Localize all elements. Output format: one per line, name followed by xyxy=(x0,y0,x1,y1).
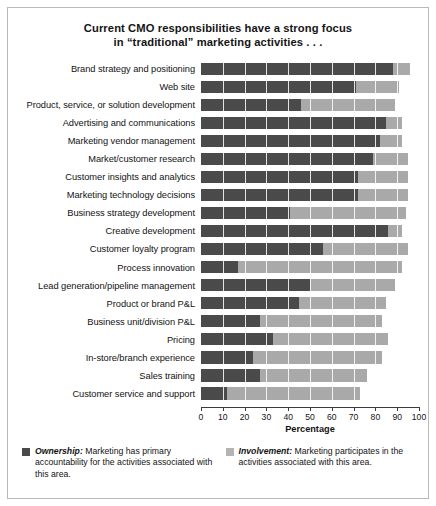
bar-segment-ownership xyxy=(201,297,299,309)
legend-swatch-involvement-icon xyxy=(226,448,234,456)
bar-segment-ownership xyxy=(201,207,290,219)
chart-title-line-2: in “traditional” marketing activities . … xyxy=(38,35,398,49)
legend-text-ownership: Ownership: Marketing has primary account… xyxy=(35,446,226,480)
bar-segment-ownership xyxy=(201,261,238,273)
stacked-bar xyxy=(201,333,388,345)
bar-segment-involvement xyxy=(273,333,389,345)
bar-row: Business strategy development xyxy=(8,204,430,222)
bar-segment-ownership xyxy=(201,369,260,381)
category-label: Marketing vendor management xyxy=(8,136,201,146)
bar-segment-ownership xyxy=(201,171,358,183)
x-axis-title: Percentage xyxy=(201,424,419,434)
stacked-bar xyxy=(201,189,408,201)
x-axis-tick-label: 40 xyxy=(283,412,293,422)
x-axis-tick xyxy=(310,407,311,411)
x-axis-tick xyxy=(332,407,333,411)
bar-segment-involvement xyxy=(290,207,406,219)
stacked-bar xyxy=(201,297,386,309)
bar-segment-ownership xyxy=(201,99,301,111)
bar-row: Brand strategy and positioning xyxy=(8,60,430,78)
stacked-bar xyxy=(201,117,402,129)
bar-segment-ownership xyxy=(201,279,310,291)
category-label: Creative development xyxy=(8,226,201,236)
category-label: Product, service, or solution developmen… xyxy=(8,100,201,110)
bar-segment-involvement xyxy=(386,117,401,129)
bar-segment-involvement xyxy=(299,297,386,309)
bar-row: Marketing technology decisions xyxy=(8,186,430,204)
bar-segment-ownership xyxy=(201,315,260,327)
category-label: Pricing xyxy=(8,335,201,345)
bar-segment-ownership xyxy=(201,243,323,255)
x-axis-tick-label: 70 xyxy=(349,412,359,422)
bar-row: Marketing vendor management xyxy=(8,132,430,150)
x-axis-tick-label: 10 xyxy=(218,412,228,422)
bar-segment-ownership xyxy=(201,81,356,93)
category-label: Web site xyxy=(8,82,201,92)
category-label: Sales training xyxy=(8,371,201,381)
x-axis-tick-label: 0 xyxy=(199,412,204,422)
category-label: Business strategy development xyxy=(8,208,201,218)
legend-lead-ownership: Ownership: xyxy=(35,446,83,456)
category-label: Business unit/division P&L xyxy=(8,317,201,327)
stacked-bar xyxy=(201,387,360,399)
bar-segment-ownership xyxy=(201,153,373,165)
x-axis-tick xyxy=(201,407,202,411)
bar-track xyxy=(201,150,419,168)
x-axis-tick xyxy=(288,407,289,411)
stacked-bar xyxy=(201,63,410,75)
bar-segment-involvement xyxy=(323,243,408,255)
bar-row: Customer loyalty program xyxy=(8,240,430,258)
bar-segment-ownership xyxy=(201,63,393,75)
category-label: Brand strategy and positioning xyxy=(8,64,201,74)
bar-track xyxy=(201,240,419,258)
bar-segment-involvement xyxy=(227,387,360,399)
bar-track xyxy=(201,277,419,295)
bar-segment-ownership xyxy=(201,333,273,345)
bar-rows: Brand strategy and positioningWeb sitePr… xyxy=(8,60,430,403)
x-axis-tick xyxy=(266,407,267,411)
x-axis-tick xyxy=(397,407,398,411)
category-label: Customer loyalty program xyxy=(8,244,201,254)
bar-segment-ownership xyxy=(201,387,227,399)
bar-row: Process innovation xyxy=(8,259,430,277)
x-axis-tick-label: 80 xyxy=(371,412,381,422)
chart-legend: Ownership: Marketing has primary account… xyxy=(8,440,430,498)
bar-row: In-store/branch experience xyxy=(8,349,430,367)
stacked-bar xyxy=(201,351,382,363)
category-label: Market/customer research xyxy=(8,154,201,164)
bar-row: Customer service and support xyxy=(8,385,430,403)
bar-segment-ownership xyxy=(201,135,380,147)
x-axis-tick xyxy=(354,407,355,411)
bar-track xyxy=(201,259,419,277)
x-axis-tick xyxy=(245,407,246,411)
bar-segment-involvement xyxy=(260,369,367,381)
bar-track xyxy=(201,331,419,349)
plot-area: Brand strategy and positioningWeb sitePr… xyxy=(8,56,430,438)
bar-track xyxy=(201,222,419,240)
bar-segment-involvement xyxy=(388,225,401,237)
bar-track xyxy=(201,114,419,132)
x-axis-tick-label: 100 xyxy=(412,412,426,422)
bar-track xyxy=(201,168,419,186)
stacked-bar xyxy=(201,81,399,93)
x-axis-tick-label: 50 xyxy=(305,412,315,422)
bar-row: Creative development xyxy=(8,222,430,240)
stacked-bar xyxy=(201,135,402,147)
legend-swatch-ownership-icon xyxy=(22,448,30,456)
bar-track xyxy=(201,78,419,96)
x-axis-tick-label: 90 xyxy=(392,412,402,422)
legend-item-ownership: Ownership: Marketing has primary account… xyxy=(22,446,226,498)
x-axis-tick-label: 20 xyxy=(240,412,250,422)
bar-track xyxy=(201,96,419,114)
x-axis-tick-label: 60 xyxy=(327,412,337,422)
legend-item-involvement: Involvement: Marketing participates in t… xyxy=(226,446,416,498)
bar-track xyxy=(201,385,419,403)
bar-segment-involvement xyxy=(310,279,395,291)
bar-track xyxy=(201,60,419,78)
category-label: Process innovation xyxy=(8,263,201,273)
bar-row: Advertising and communications xyxy=(8,114,430,132)
bar-row: Product, service, or solution developmen… xyxy=(8,96,430,114)
bar-row: Business unit/division P&L xyxy=(8,313,430,331)
category-label: Advertising and communications xyxy=(8,118,201,128)
legend-lead-involvement: Involvement: xyxy=(239,446,293,456)
